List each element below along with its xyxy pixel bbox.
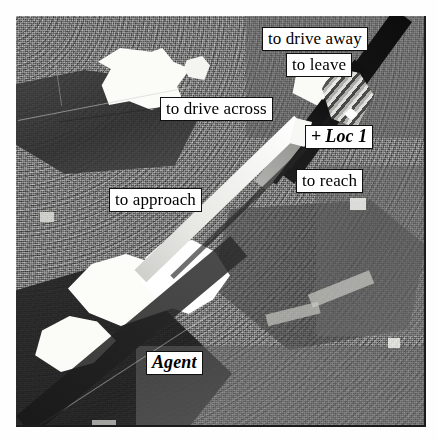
plus-marker-icon: + bbox=[311, 126, 321, 146]
annotation-agent-text: Agent bbox=[152, 352, 197, 372]
bright-speck-bottom bbox=[92, 420, 116, 427]
annotation-loc-1[interactable]: +Loc 1 bbox=[305, 125, 373, 149]
bright-speck-right-2 bbox=[388, 338, 400, 348]
bright-speck-left bbox=[40, 212, 54, 222]
bright-speck-right-1 bbox=[350, 198, 366, 210]
annotation-to-drive-away-text: to drive away bbox=[268, 29, 362, 48]
annotation-to-approach[interactable]: to approach bbox=[109, 188, 202, 212]
annotation-to-leave[interactable]: to leave bbox=[286, 53, 352, 77]
annotation-to-drive-across-text: to drive across bbox=[166, 99, 267, 118]
annotation-to-drive-away[interactable]: to drive away bbox=[262, 27, 368, 51]
annotation-to-reach[interactable]: to reach bbox=[296, 169, 363, 193]
annotation-to-reach-text: to reach bbox=[302, 171, 357, 190]
page-root: to drive away to leave to drive across +… bbox=[0, 0, 438, 441]
annotation-to-leave-text: to leave bbox=[292, 55, 346, 74]
annotation-to-approach-text: to approach bbox=[115, 190, 196, 209]
annotation-loc-1-text: Loc 1 bbox=[325, 126, 367, 146]
annotation-agent[interactable]: Agent bbox=[146, 351, 203, 375]
annotation-to-drive-across[interactable]: to drive across bbox=[160, 97, 273, 121]
aerial-photograph: to drive away to leave to drive across +… bbox=[16, 16, 426, 427]
